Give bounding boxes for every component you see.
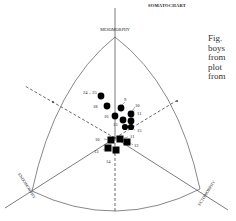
point-label: 15 <box>137 128 142 133</box>
data-point <box>120 117 127 124</box>
data-point <box>117 136 124 143</box>
data-point <box>112 113 119 120</box>
point-label: 10 <box>135 103 140 108</box>
square-points <box>105 136 131 154</box>
axis-label-mesomorphy: MESOMORPHY <box>100 27 130 32</box>
point-label: 12 <box>134 143 139 148</box>
dashed-axes <box>25 86 176 213</box>
data-point <box>128 118 135 125</box>
axis-label-ectomorphy: ECTOMORPHY <box>197 179 216 206</box>
point-label: 18 <box>93 104 98 109</box>
point-label: 10 <box>95 137 100 142</box>
data-point <box>108 137 115 144</box>
data-point <box>118 105 125 112</box>
point-label: 11 <box>137 111 142 116</box>
point-label: 13 <box>113 122 118 127</box>
point-label: 13 <box>94 149 99 154</box>
point-label: 9 <box>124 97 127 102</box>
point-label: 16 <box>104 114 109 119</box>
data-point <box>113 147 120 154</box>
data-point <box>124 139 131 146</box>
point-label: 11 <box>130 134 135 139</box>
data-point <box>122 124 128 130</box>
data-point <box>104 103 111 110</box>
point-label: 24 – 25 <box>83 90 97 95</box>
axis-label-endomorphy: ENDOMORPHY <box>17 172 37 200</box>
data-point <box>98 93 105 100</box>
data-point <box>105 145 112 152</box>
point-label: 14 <box>106 159 111 164</box>
somatochart: MESOMORPHY ENDOMORPHY ECTOMORPHY 24 – 25 <box>0 0 236 221</box>
